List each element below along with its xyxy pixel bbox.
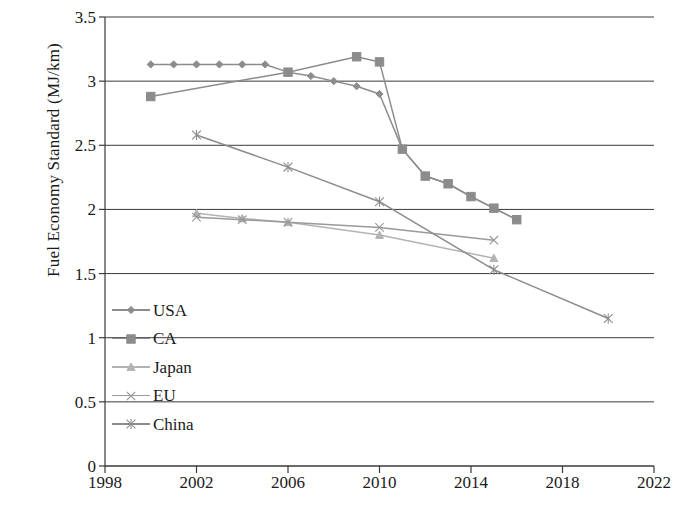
- data-point-marker-diamond: [239, 61, 246, 68]
- data-point-marker-diamond: [170, 61, 177, 68]
- legend-label: CA: [153, 330, 177, 347]
- legend-key-ca: [112, 332, 150, 346]
- data-point-marker-diamond: [147, 61, 154, 68]
- legend-key-marker-asterisk: [124, 417, 138, 431]
- legend-key-china: [112, 417, 150, 431]
- legend-key-japan: [112, 360, 150, 374]
- legend-key-marker-triangle: [124, 360, 138, 374]
- y-tick-label: 1.5: [75, 265, 96, 282]
- data-point-marker-diamond: [376, 90, 383, 97]
- legend-label: China: [153, 416, 194, 433]
- data-point-marker-square: [375, 58, 383, 66]
- y-axis-tick-labels: 00.511.522.533.5: [46, 0, 96, 506]
- data-point-marker-diamond: [262, 61, 269, 68]
- legend-key-marker-cross: [124, 389, 138, 403]
- data-point-marker-diamond: [193, 61, 200, 68]
- data-point-marker-square: [284, 68, 292, 76]
- x-tick-label: 2018: [546, 474, 580, 491]
- y-tick-label: 2: [88, 201, 97, 218]
- data-point-marker-square: [147, 92, 155, 100]
- data-point-marker-square: [444, 180, 452, 188]
- data-point-marker-diamond: [216, 61, 223, 68]
- data-point-marker-diamond: [127, 307, 134, 314]
- data-point-marker-diamond: [330, 78, 337, 85]
- x-tick-label: 2002: [180, 474, 214, 491]
- series-china: [192, 130, 613, 324]
- x-tick-label: 1998: [88, 474, 122, 491]
- legend-key-usa: [112, 303, 150, 317]
- legend-item-japan[interactable]: Japan: [112, 353, 262, 382]
- x-tick-label: 2010: [363, 474, 397, 491]
- legend-key-marker-diamond: [124, 303, 138, 317]
- data-point-marker-diamond: [307, 72, 314, 79]
- y-tick-label: 0: [88, 458, 97, 475]
- series-line: [197, 135, 609, 318]
- y-tick-label: 3.5: [75, 9, 96, 26]
- fuel-economy-line-chart: Fuel Economy Standard (MJ/km) 00.511.522…: [0, 0, 674, 506]
- data-point-marker-square: [352, 53, 360, 61]
- data-point-marker-square: [127, 335, 135, 343]
- legend-key-marker-square: [124, 332, 138, 346]
- legend-key-eu: [112, 389, 150, 403]
- chart-legend: USACAJapanEUChina: [112, 296, 262, 439]
- data-point-marker-square: [398, 145, 406, 153]
- x-tick-label: 2014: [454, 474, 488, 491]
- data-point-marker-square: [467, 192, 475, 200]
- y-tick-label: 2.5: [75, 137, 96, 154]
- legend-label: Japan: [153, 359, 192, 376]
- series-line: [151, 64, 517, 219]
- legend-item-ca[interactable]: CA: [112, 325, 262, 354]
- x-tick-label: 2006: [271, 474, 305, 491]
- legend-item-eu[interactable]: EU: [112, 382, 262, 411]
- y-tick-label: 0.5: [75, 393, 96, 410]
- data-point-marker-square: [490, 204, 498, 212]
- data-point-marker-diamond: [353, 83, 360, 90]
- x-tick-label: 2022: [637, 474, 671, 491]
- series-usa: [147, 61, 520, 223]
- legend-item-china[interactable]: China: [112, 410, 262, 439]
- y-tick-label: 1: [88, 329, 97, 346]
- data-point-marker-triangle: [127, 363, 135, 370]
- data-point-marker-square: [421, 172, 429, 180]
- y-tick-label: 3: [88, 73, 97, 90]
- legend-label: EU: [153, 387, 176, 404]
- data-point-marker-square: [513, 215, 521, 223]
- plot-canvas: [0, 0, 674, 506]
- legend-item-usa[interactable]: USA: [112, 296, 262, 325]
- legend-label: USA: [153, 302, 187, 319]
